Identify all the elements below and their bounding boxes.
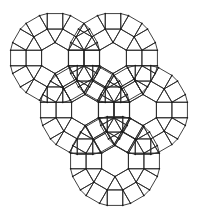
vertex-dot (130, 203, 132, 205)
vertex-dot (106, 131, 108, 133)
triangle-tile (156, 118, 172, 131)
triangle-tile (56, 118, 72, 131)
vertex-dot (163, 88, 165, 90)
vertex-dot (134, 65, 136, 67)
vertex-dot (83, 49, 85, 51)
vertex-dot (91, 78, 93, 80)
triangle-tile (63, 14, 71, 30)
vertex-dot (171, 101, 173, 103)
triangle-tile (98, 14, 106, 30)
vertex-dot (108, 138, 110, 140)
square-tile (26, 16, 47, 37)
vertex-dot (120, 102, 122, 104)
triangle-tile (11, 66, 27, 74)
vertex-dot (50, 80, 52, 82)
vertex-dot (85, 152, 87, 154)
vertex-dot (104, 86, 106, 88)
square-tile (77, 139, 93, 155)
vertex-dot (71, 117, 73, 119)
vertex-dot (128, 100, 130, 102)
square-tile (113, 29, 134, 50)
triangle-tile (134, 23, 147, 36)
vertex-dot (99, 118, 101, 120)
triangle-tile (50, 131, 63, 144)
vertex-dot (141, 49, 143, 51)
vertex-dot (143, 168, 145, 170)
vertex-dot (72, 145, 74, 147)
square-tile (47, 14, 63, 30)
vertex-dot (85, 195, 87, 197)
vertex-dot (134, 154, 136, 156)
vertex-dot (157, 65, 159, 67)
vertex-dot (33, 78, 35, 80)
vertex-dot (46, 102, 48, 104)
square-tile (86, 153, 102, 169)
vertex-dot (120, 13, 122, 15)
vertex-dot (41, 49, 43, 51)
triangle-tile (40, 14, 48, 30)
vertex-dot (80, 131, 82, 133)
square-tile (105, 14, 121, 30)
vertex-dot (122, 131, 124, 133)
vertex-dot (12, 73, 14, 75)
vertex-dot (46, 13, 48, 15)
triangle-tile (135, 81, 151, 94)
vertex-dot (163, 130, 165, 132)
vertex-dot (84, 94, 86, 96)
vertex-dot (149, 189, 151, 191)
vertex-dot (187, 101, 189, 103)
vertex-dot (62, 28, 64, 30)
vertex-dot (63, 130, 65, 132)
triangle-tile (11, 43, 27, 51)
vertex-dot (62, 13, 64, 15)
square-tile (136, 132, 157, 153)
vertex-dot (159, 152, 161, 154)
vertex-dot (25, 49, 27, 51)
vertex-dot (20, 28, 22, 30)
vertex-dot (55, 144, 57, 146)
vertex-dot (78, 28, 80, 30)
vertex-dot (100, 125, 102, 127)
vertex-dot (106, 116, 108, 118)
vertex-dot (119, 80, 121, 82)
vertex-dot (126, 65, 128, 67)
square-tile (107, 190, 123, 206)
triangle-tile (86, 169, 102, 182)
vertex-dot (70, 152, 72, 154)
vertex-dot (70, 73, 72, 75)
vertex-dot (46, 86, 48, 88)
vertex-dot (70, 168, 72, 170)
vertex-dot (39, 100, 41, 102)
square-tile (43, 118, 64, 139)
square-tile (86, 182, 107, 203)
vertex-dot (141, 23, 143, 25)
vertex-dot (127, 67, 129, 69)
vertex-dot (142, 94, 144, 96)
triangle-tile (47, 29, 63, 42)
vertex-dot (55, 117, 57, 119)
vertex-dot (114, 145, 116, 147)
vertex-dot (135, 139, 137, 141)
vertex-dot (133, 78, 135, 80)
vertex-dot (119, 138, 121, 140)
square-tile (114, 102, 130, 118)
triangle-tile (164, 75, 177, 88)
vertex-dot (42, 125, 44, 127)
square-tile (128, 153, 144, 169)
square-tile (41, 102, 57, 118)
vertex-dot (70, 15, 72, 17)
vertex-dot (177, 80, 179, 82)
triangle-tile (80, 182, 93, 195)
vertex-dot (185, 94, 187, 96)
vertex-dot (100, 94, 102, 96)
vertex-dot (83, 23, 85, 25)
vertex-dot (54, 42, 56, 44)
vertex-dot (97, 15, 99, 17)
vertex-dot (100, 67, 102, 69)
square-tile (56, 102, 72, 118)
triangle-tile (156, 89, 172, 102)
square-tile (143, 81, 164, 102)
square-tile (156, 102, 172, 118)
vertex-dot (177, 138, 179, 140)
vertex-dot (149, 131, 151, 133)
